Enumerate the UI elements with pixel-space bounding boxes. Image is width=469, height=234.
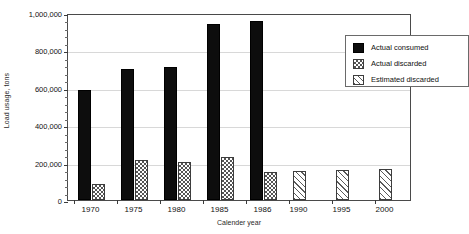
plot-area: Actual consumedActual discardedEstimated… bbox=[67, 14, 411, 201]
bar-1975-actual-discarded bbox=[135, 160, 148, 200]
x-axis-tick-mark bbox=[203, 200, 204, 204]
bar-1970-actual-consumed bbox=[78, 90, 91, 200]
x-axis-tick-label: 1990 bbox=[290, 205, 308, 214]
y-axis-tick-labels: 0200,000400,000600,000800,0001,000,000 bbox=[8, 0, 62, 234]
bar-1980-actual-discarded bbox=[178, 162, 191, 200]
x-axis-tick-mark bbox=[246, 200, 247, 204]
y-axis-tick-label: 0 bbox=[8, 197, 62, 206]
y-axis-minor-tick-mark bbox=[65, 180, 68, 181]
x-axis-tick-label: 1975 bbox=[125, 205, 143, 214]
bar-1975-actual-consumed bbox=[121, 69, 134, 200]
bar-1985-actual-consumed bbox=[207, 24, 220, 200]
y-axis-minor-tick-mark bbox=[65, 82, 68, 83]
x-axis-tick-label: 2000 bbox=[376, 205, 394, 214]
legend-entry: Estimated discarded bbox=[353, 72, 468, 87]
y-axis-tick-label: 200,000 bbox=[8, 159, 62, 168]
legend-entry: Actual discarded bbox=[353, 56, 468, 71]
y-axis-tick-mark bbox=[64, 127, 68, 128]
y-axis-tick-mark bbox=[64, 15, 68, 16]
bar-1980-actual-consumed bbox=[164, 67, 177, 200]
bar-1970-actual-discarded bbox=[92, 184, 105, 200]
y-axis-minor-tick-mark bbox=[65, 150, 68, 151]
y-axis-minor-tick-mark bbox=[65, 97, 68, 98]
legend-label: Actual discarded bbox=[371, 59, 426, 68]
y-axis-minor-tick-mark bbox=[65, 60, 68, 61]
y-axis-tick-mark bbox=[64, 165, 68, 166]
y-axis-tick-mark bbox=[64, 52, 68, 53]
bar-1990-estimated-discarded bbox=[293, 171, 306, 200]
y-axis-minor-tick-mark bbox=[65, 172, 68, 173]
y-axis-minor-tick-mark bbox=[65, 67, 68, 68]
legend-label: Estimated discarded bbox=[371, 75, 439, 84]
legend-swatch-estimated bbox=[353, 75, 364, 85]
y-axis-minor-tick-mark bbox=[65, 135, 68, 136]
legend-label: Actual consumed bbox=[371, 43, 429, 52]
legend-swatch-discarded bbox=[353, 59, 364, 69]
y-axis-minor-tick-mark bbox=[65, 195, 68, 196]
y-axis-minor-tick-mark bbox=[65, 45, 68, 46]
y-axis-tick-label: 1,000,000 bbox=[8, 10, 62, 19]
bar-1986-actual-discarded bbox=[264, 172, 277, 200]
bar-1995-estimated-discarded bbox=[336, 170, 349, 200]
gridline bbox=[68, 127, 410, 128]
x-axis-title: Calender year bbox=[67, 219, 411, 226]
bar-1985-actual-discarded bbox=[221, 157, 234, 200]
y-axis-minor-tick-mark bbox=[65, 120, 68, 121]
y-axis-tick-label: 600,000 bbox=[8, 84, 62, 93]
y-axis-minor-tick-mark bbox=[65, 37, 68, 38]
y-axis-minor-tick-mark bbox=[65, 75, 68, 76]
x-axis-tick-mark bbox=[117, 200, 118, 204]
y-axis-minor-tick-mark bbox=[65, 187, 68, 188]
legend: Actual consumedActual discardedEstimated… bbox=[345, 35, 469, 87]
y-axis-minor-tick-mark bbox=[65, 105, 68, 106]
y-axis-minor-tick-mark bbox=[65, 112, 68, 113]
y-axis-tick-mark bbox=[64, 202, 68, 203]
bar-2000-estimated-discarded bbox=[379, 169, 392, 200]
y-axis-minor-tick-mark bbox=[65, 22, 68, 23]
y-axis-tick-mark bbox=[64, 90, 68, 91]
x-axis-tick-mark bbox=[332, 200, 333, 204]
x-axis-title-text: Calender year bbox=[217, 219, 261, 226]
bar-1986-actual-consumed bbox=[250, 21, 263, 200]
x-axis-tick-label: 1970 bbox=[82, 205, 100, 214]
x-axis-tick-label: 1985 bbox=[211, 205, 229, 214]
x-axis-tick-mark bbox=[289, 200, 290, 204]
x-axis-tick-mark bbox=[74, 200, 75, 204]
y-axis-minor-tick-mark bbox=[65, 142, 68, 143]
y-axis-tick-label: 800,000 bbox=[8, 47, 62, 56]
x-axis-tick-label: 1995 bbox=[333, 205, 351, 214]
x-axis-tick-mark bbox=[375, 200, 376, 204]
gridline bbox=[68, 90, 410, 91]
y-axis-minor-tick-mark bbox=[65, 157, 68, 158]
x-axis-tick-label: 1986 bbox=[254, 205, 272, 214]
y-axis-minor-tick-mark bbox=[65, 30, 68, 31]
legend-swatch-consumed bbox=[353, 43, 364, 53]
gridline bbox=[68, 165, 410, 166]
x-axis-tick-label: 1980 bbox=[168, 205, 186, 214]
y-axis-tick-label: 400,000 bbox=[8, 122, 62, 131]
legend-entry: Actual consumed bbox=[353, 40, 468, 55]
x-axis-tick-mark bbox=[160, 200, 161, 204]
